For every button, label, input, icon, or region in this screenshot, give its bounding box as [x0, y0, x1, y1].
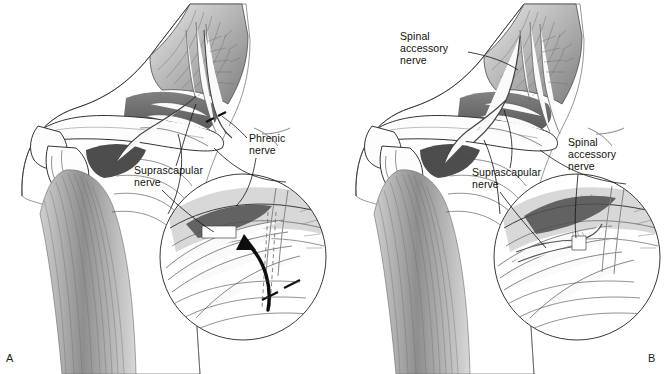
label-suprascapular-nerve-b-line-2: nerve: [472, 178, 499, 190]
panel-letter-b: B: [648, 352, 656, 364]
label-phrenic-nerve-line-2: nerve: [249, 144, 276, 156]
panel-letter-a: A: [6, 352, 14, 364]
label-spinal-accessory-upper-line-2: accessory: [400, 42, 449, 54]
label-spinal-accessory-upper-line-3: nerve: [400, 54, 427, 66]
label-spinal-accessory-lower-line-2: accessory: [568, 148, 617, 160]
label-suprascapular-nerve-line-1: Suprascapular: [134, 164, 203, 176]
label-spinal-accessory-lower-line-1: Spinal: [568, 136, 598, 148]
label-phrenic-nerve-line-1: Phrenic: [249, 132, 285, 144]
label-spinal-accessory-upper-line-1: Spinal: [400, 30, 430, 42]
label-spinal-accessory-lower-line-3: nerve: [568, 160, 595, 172]
panel-b: Spinal accessory nerve Spinal accessory …: [334, 0, 668, 374]
label-suprascapular-nerve-b-line-1: Suprascapular: [472, 166, 541, 178]
label-suprascapular-nerve-line-2: nerve: [134, 176, 161, 188]
panel-a: Phrenic nerve Suprascapular nerve: [0, 0, 334, 374]
figure-nerve-transfer: Phrenic nerve Suprascapular nerve: [0, 0, 668, 374]
